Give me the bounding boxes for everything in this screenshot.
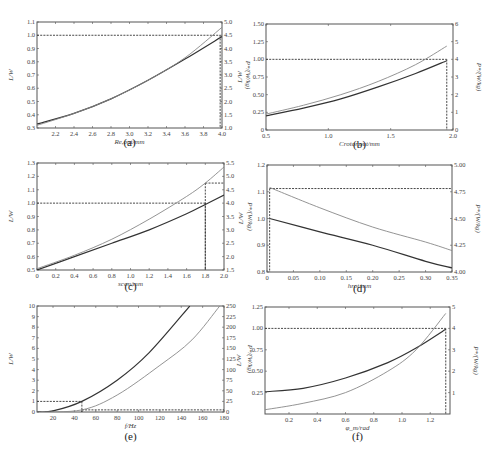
plot-frame [37, 163, 224, 270]
y-left-axis-label: L/W [7, 209, 15, 223]
x-tick-label: 0.30 [420, 274, 431, 281]
y-right-tick-label: 50 [226, 387, 233, 394]
x-tick-label: 0.4 [70, 272, 79, 279]
x-tick-label: 1.8 [201, 272, 209, 279]
x-tick-label: 2.4 [70, 130, 79, 137]
y-left-axis-label: L/W [235, 353, 243, 367]
series-line-P [37, 167, 224, 269]
y-right-axis-label: P*/(W/kg) [474, 203, 482, 233]
x-tick-label: 0.20 [367, 274, 378, 281]
y-right-tick-label: 250 [226, 302, 236, 309]
y-left-tick-label: 0.9 [257, 241, 265, 248]
panel-caption: (a) [123, 136, 136, 149]
series-line-P [37, 306, 220, 412]
x-tick-label: 3.4 [162, 130, 171, 137]
y-left-tick-label: 0.9 [27, 213, 35, 220]
chart-panel-e: 2040608010012014016018001234567891002550… [7, 302, 254, 443]
y-right-tick-label: 0 [455, 126, 458, 133]
y-left-tick-label: 0.9 [27, 45, 35, 52]
y-right-tick-label: 3 [452, 346, 455, 353]
x-tick-label: 2.0 [220, 272, 228, 279]
y-left-tick-label: 1.1 [27, 18, 35, 25]
y-right-tick-label: 150 [226, 344, 236, 351]
y-right-tick-label: 4 [455, 55, 459, 62]
y-left-tick-label: 0.3 [27, 124, 35, 131]
y-right-tick-label: 1.0 [224, 124, 232, 131]
y-right-axis-label: P*/(W/kg) [475, 62, 483, 92]
y-right-axis-label: P*/(W/kg) [472, 345, 480, 375]
x-tick-label: 0.2 [52, 272, 60, 279]
x-tick-label: 0.6 [89, 272, 98, 279]
series-line-L [270, 219, 452, 268]
y-left-tick-label: 9 [32, 313, 35, 320]
y-right-axis-label: P*/(W/kg) [244, 60, 252, 90]
x-tick-label: 1.0 [324, 132, 332, 139]
y-right-tick-label: 5.0 [224, 18, 232, 25]
y-right-tick-label: 2.5 [226, 239, 234, 246]
y-left-tick-label: 5 [32, 355, 35, 362]
x-tick-label: 0.5 [262, 132, 270, 139]
y-right-tick-label: 1 [452, 389, 455, 396]
x-tick-label: 120 [155, 414, 165, 421]
x-tick-label: 160 [198, 414, 208, 421]
y-right-tick-label: 5 [455, 38, 458, 45]
x-tick-label: 3.2 [144, 130, 152, 137]
series-line-L [37, 306, 190, 412]
x-tick-label: 0.8 [108, 272, 116, 279]
y-left-tick-label: 6 [32, 344, 36, 351]
y-left-axis-label: L/W [236, 70, 244, 84]
plot-frame [265, 307, 450, 414]
y-right-tick-label: 3 [455, 73, 458, 80]
y-right-tick-label: 4.75 [454, 188, 465, 195]
chart-panel-a: 2.22.42.62.83.03.23.43.63.84.00.30.40.50… [7, 18, 252, 149]
x-axis-label: f/Hz [125, 422, 137, 430]
series-line-P [37, 27, 222, 125]
x-tick-label: 1.0 [126, 272, 134, 279]
y-left-tick-label: 1.00 [252, 324, 263, 331]
x-tick-label: 1.2 [145, 272, 153, 279]
y-left-tick-label: 10 [29, 302, 36, 309]
y-left-tick-label: 3 [32, 376, 35, 383]
x-tick-label: 1.2 [426, 416, 434, 423]
x-tick-label: 60 [93, 414, 100, 421]
plot-frame [267, 165, 452, 272]
chart-panel-b: 0.51.01.52.000.250.500.751.001.251.50012… [236, 20, 483, 151]
y-left-tick-label: 4 [32, 366, 36, 373]
y-left-tick-label: 0.7 [27, 239, 36, 246]
figure-canvas: 2.22.42.62.83.03.23.43.63.84.00.30.40.50… [0, 0, 489, 457]
panel-caption: (e) [124, 430, 137, 443]
y-right-tick-label: 200 [226, 323, 236, 330]
y-left-axis-label: L/W [7, 352, 15, 366]
y-right-tick-label: 2 [452, 367, 455, 374]
x-tick-label: 100 [134, 414, 144, 421]
y-right-tick-label: 5.0 [226, 172, 234, 179]
x-tick-label: 2.8 [107, 130, 115, 137]
y-left-tick-label: 7 [32, 334, 36, 341]
y-right-tick-label: 2 [455, 91, 458, 98]
x-tick-label: 80 [114, 414, 121, 421]
y-left-tick-label: 1.0 [27, 199, 35, 206]
x-tick-label: 1.5 [387, 132, 395, 139]
series-line-P [265, 313, 446, 409]
x-tick-label: 0.35 [446, 274, 457, 281]
x-tick-label: 0.15 [341, 274, 352, 281]
y-left-tick-label: 0.25 [252, 389, 263, 396]
x-tick-label: 0.10 [314, 274, 325, 281]
series-line-L [265, 329, 446, 391]
y-left-tick-label: 0.8 [257, 268, 265, 275]
panel-caption: (b) [353, 138, 366, 151]
panel-caption: (d) [353, 282, 366, 295]
y-left-tick-label: 1.00 [253, 55, 264, 62]
y-left-tick-label: 0.8 [27, 226, 35, 233]
x-tick-label: 40 [71, 414, 78, 421]
y-left-tick-label: 1.50 [253, 20, 264, 27]
y-right-tick-label: 5.00 [454, 161, 465, 168]
y-right-tick-label: 4.50 [454, 215, 465, 222]
y-right-tick-label: 6 [455, 20, 459, 27]
y-left-axis-label: L/W [237, 211, 245, 225]
y-right-tick-label: 2.5 [224, 84, 232, 91]
series-line-P [270, 187, 452, 250]
y-left-tick-label: 0.75 [252, 346, 263, 353]
y-left-tick-label: 1.2 [257, 161, 265, 168]
y-right-tick-label: 3.0 [226, 226, 234, 233]
